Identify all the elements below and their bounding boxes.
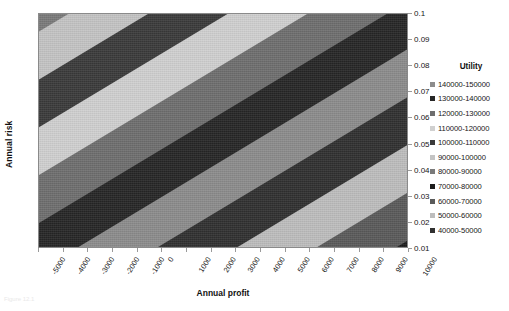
figure-caption: Figure 12.1 — [4, 296, 34, 302]
y-tick — [408, 39, 412, 40]
x-tick-label: -5000 — [50, 255, 68, 276]
y-tick — [408, 91, 412, 92]
plot-area — [38, 13, 408, 248]
legend-item[interactable]: 110000-120000 — [430, 121, 508, 136]
x-tick-label: 0 — [166, 255, 176, 263]
x-tick-label: -3000 — [99, 255, 117, 276]
legend-item-label: 60000-70000 — [438, 197, 482, 206]
legend-swatch-icon — [430, 228, 435, 233]
x-tick-label: 6000 — [320, 255, 336, 274]
legend-swatch-icon — [430, 213, 435, 218]
x-tick-label: -4000 — [74, 255, 92, 276]
legend-item[interactable]: 40000-50000 — [430, 223, 508, 238]
y-tick-label: 0.08 — [414, 61, 430, 70]
x-tick-label: 8000 — [369, 255, 385, 274]
y-tick-label: 0.01 — [414, 244, 430, 253]
x-tick-label: -1000 — [148, 255, 166, 276]
y-tick — [408, 222, 412, 223]
legend-item-label: 90000-100000 — [438, 153, 486, 162]
x-tick-label: 2000 — [221, 255, 237, 274]
legend-swatch-icon — [430, 82, 435, 87]
legend-swatch-icon — [430, 140, 435, 145]
y-tick-label: 0.06 — [414, 113, 430, 122]
legend-item-label: 70000-80000 — [438, 182, 482, 191]
legend-item[interactable]: 120000-130000 — [430, 106, 508, 121]
legend-item-label: 80000-90000 — [438, 167, 482, 176]
y-tick-label: 0.07 — [414, 87, 430, 96]
y-tick — [408, 144, 412, 145]
legend-item-label: 130000-140000 — [438, 94, 490, 103]
x-tick-label: 5000 — [295, 255, 311, 274]
x-tick-label: 1000 — [197, 255, 213, 274]
chart-page: Annual risk -5000-4000-3000-2000-1000010… — [0, 0, 509, 311]
legend-swatch-icon — [430, 169, 435, 174]
y-tick — [408, 170, 412, 171]
y-tick-label: 0.1 — [414, 9, 425, 18]
x-tick-label: 10000 — [421, 255, 440, 277]
y-tick-label: 0.04 — [414, 165, 430, 174]
x-tick-label: 9000 — [394, 255, 410, 274]
legend-item[interactable]: 130000-140000 — [430, 92, 508, 107]
x-axis-tick-labels: -5000-4000-3000-2000-1000010002000300040… — [38, 252, 408, 286]
legend-item[interactable]: 60000-70000 — [430, 194, 508, 209]
legend-item[interactable]: 70000-80000 — [430, 179, 508, 194]
legend-item-label: 140000-150000 — [438, 80, 490, 89]
y-tick-label: 0.03 — [414, 191, 430, 200]
y-tick — [408, 13, 412, 14]
surface-plot — [38, 13, 408, 248]
y-tick-label: 0.05 — [414, 139, 430, 148]
y-tick — [408, 65, 412, 66]
legend-item-label: 40000-50000 — [438, 226, 482, 235]
legend-item[interactable]: 90000-100000 — [430, 150, 508, 165]
legend: Utility 140000-150000130000-140000120000… — [430, 62, 508, 238]
legend-item[interactable]: 80000-90000 — [430, 165, 508, 180]
legend-item-label: 110000-120000 — [438, 124, 489, 133]
legend-swatch-icon — [430, 199, 435, 204]
legend-swatch-icon — [430, 126, 435, 131]
legend-item-label: 120000-130000 — [438, 109, 490, 118]
y-axis-title: Annual risk — [2, 104, 16, 184]
x-tick-label: -2000 — [124, 255, 142, 276]
y-tick-label: 0.02 — [414, 217, 430, 226]
y-tick — [408, 248, 412, 249]
legend-swatch-icon — [430, 155, 435, 160]
y-tick-label: 0.09 — [414, 35, 430, 44]
x-axis-title: Annual profit — [38, 288, 408, 298]
legend-swatch-icon — [430, 96, 435, 101]
contour-bands — [38, 13, 408, 248]
x-tick-label: 4000 — [271, 255, 287, 274]
y-axis-ticks — [408, 13, 413, 248]
x-tick-label: 3000 — [246, 255, 262, 274]
y-tick — [408, 196, 412, 197]
x-tick-label: 7000 — [345, 255, 361, 274]
legend-swatch-icon — [430, 184, 435, 189]
legend-item[interactable]: 100000-110000 — [430, 135, 508, 150]
legend-items: 140000-150000130000-140000120000-1300001… — [430, 77, 508, 238]
legend-item-label: 50000-60000 — [438, 211, 482, 220]
legend-title: Utility — [434, 62, 508, 71]
legend-swatch-icon — [430, 111, 435, 116]
legend-item[interactable]: 50000-60000 — [430, 208, 508, 223]
legend-item[interactable]: 140000-150000 — [430, 77, 508, 92]
y-tick — [408, 117, 412, 118]
legend-item-label: 100000-110000 — [438, 138, 489, 147]
